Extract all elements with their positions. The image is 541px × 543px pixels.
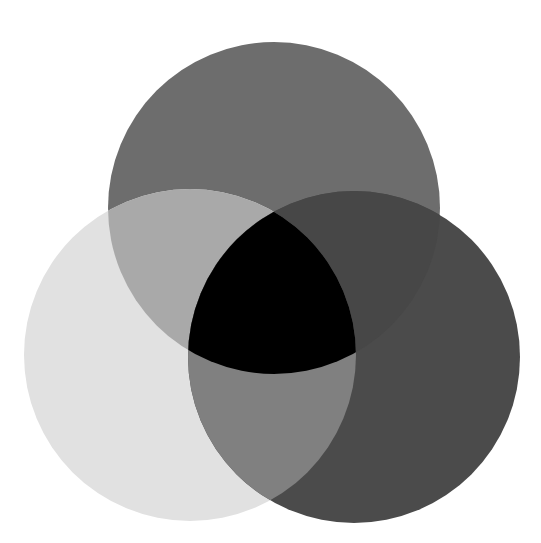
- venn-diagram-canvas: [0, 0, 541, 543]
- three-set-venn-diagram: [0, 0, 541, 543]
